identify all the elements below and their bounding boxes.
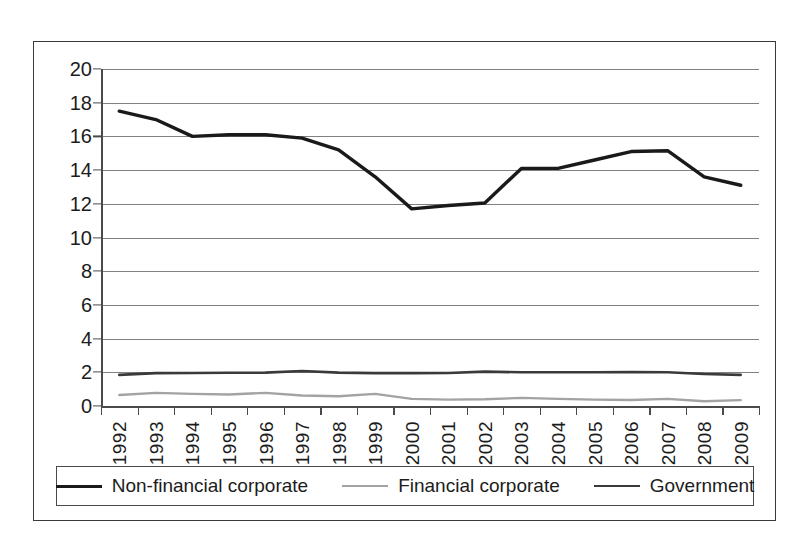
y-axis-tick-label: 0 xyxy=(81,395,92,418)
y-axis-tick-label: 16 xyxy=(70,125,92,148)
y-axis-tick-label: 14 xyxy=(70,159,92,182)
x-axis-tick-mark xyxy=(211,406,212,415)
x-axis-tick-label: 1997 xyxy=(292,421,314,465)
x-axis-tick-mark xyxy=(174,406,175,415)
x-axis-tick-mark xyxy=(430,406,431,415)
x-axis-tick-mark xyxy=(576,406,577,415)
x-axis-tick-mark xyxy=(759,406,760,415)
series-line xyxy=(119,371,740,375)
x-axis-tick-label: 1995 xyxy=(219,421,241,465)
x-axis-tick-mark xyxy=(503,406,504,415)
x-axis-tick-mark xyxy=(467,406,468,415)
x-axis-tick-label: 2005 xyxy=(585,421,607,465)
legend-entry[interactable]: Non-financial corporate xyxy=(56,475,308,497)
legend-line-swatch-icon xyxy=(342,485,388,487)
x-axis-tick-mark xyxy=(649,406,650,415)
x-axis-tick-mark xyxy=(393,406,394,415)
x-axis-tick-label: 2002 xyxy=(475,421,497,465)
x-axis-tick-label: 2006 xyxy=(621,421,643,465)
y-axis-tick-mark xyxy=(93,170,101,171)
x-axis-tick-label: 2007 xyxy=(658,421,680,465)
legend-entry[interactable]: Financial corporate xyxy=(342,475,560,497)
legend-entry[interactable]: Government xyxy=(594,475,755,497)
x-axis-tick-label: 2001 xyxy=(438,421,460,465)
y-axis-tick-label: 10 xyxy=(70,226,92,249)
x-axis-tick-label: 1992 xyxy=(109,421,131,465)
chart-legend: Non-financial corporateFinancial corpora… xyxy=(56,466,754,506)
x-axis-tick-mark xyxy=(540,406,541,415)
x-axis-tick-mark xyxy=(722,406,723,415)
legend-label: Government xyxy=(650,475,755,497)
y-axis-tick-label: 12 xyxy=(70,192,92,215)
x-axis-tick-mark xyxy=(138,406,139,415)
x-axis-tick-mark xyxy=(320,406,321,415)
y-axis-tick-mark xyxy=(93,405,101,406)
y-axis-tick-mark xyxy=(93,102,101,103)
y-axis-tick-label: 4 xyxy=(81,327,92,350)
x-axis-tick-mark xyxy=(613,406,614,415)
x-axis-tick-label: 2009 xyxy=(731,421,753,465)
series-lines xyxy=(101,69,759,406)
y-axis-tick-mark xyxy=(93,304,101,305)
x-axis-tick-label: 1996 xyxy=(256,421,278,465)
x-axis-tick-label: 2003 xyxy=(511,421,533,465)
y-axis-tick-label: 18 xyxy=(70,91,92,114)
series-line xyxy=(119,111,740,209)
y-axis-tick-label: 20 xyxy=(70,58,92,81)
legend-line-swatch-icon xyxy=(56,485,102,488)
x-axis-tick-label: 1999 xyxy=(365,421,387,465)
legend-line-swatch-icon xyxy=(594,485,640,487)
series-line xyxy=(119,393,740,401)
y-axis-tick-mark xyxy=(93,271,101,272)
x-axis-tick-label: 2008 xyxy=(694,421,716,465)
x-axis-tick-label: 2004 xyxy=(548,421,570,465)
x-axis-tick-mark xyxy=(284,406,285,415)
plot-area: 02468101214161820 1992199319941995199619… xyxy=(101,69,759,406)
x-axis-tick-mark xyxy=(247,406,248,415)
x-axis-tick-mark xyxy=(686,406,687,415)
x-axis-tick-mark xyxy=(357,406,358,415)
y-axis-tick-mark xyxy=(93,338,101,339)
legend-label: Financial corporate xyxy=(398,475,560,497)
chart-figure: 02468101214161820 1992199319941995199619… xyxy=(33,41,776,521)
y-axis-tick-label: 6 xyxy=(81,293,92,316)
y-axis-tick-mark xyxy=(93,203,101,204)
x-axis-tick-label: 1998 xyxy=(329,421,351,465)
x-axis-tick-label: 1993 xyxy=(146,421,168,465)
x-axis-tick-label: 1994 xyxy=(182,421,204,465)
y-axis-tick-label: 2 xyxy=(81,361,92,384)
y-axis-tick-mark xyxy=(93,372,101,373)
x-axis-tick-mark xyxy=(101,406,102,415)
y-axis-tick-mark xyxy=(93,237,101,238)
x-axis-tick-label: 2000 xyxy=(402,421,424,465)
y-axis-tick-mark xyxy=(93,68,101,69)
y-axis-tick-mark xyxy=(93,136,101,137)
legend-label: Non-financial corporate xyxy=(112,475,308,497)
y-axis-tick-label: 8 xyxy=(81,260,92,283)
